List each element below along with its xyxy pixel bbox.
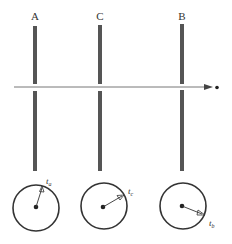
clock-c: tc <box>81 183 134 229</box>
clock-b-label: tb <box>209 218 215 229</box>
plate-label-c: C <box>96 10 103 22</box>
clock-a: ta <box>13 176 59 231</box>
plate-b <box>180 24 184 171</box>
plate-label-b: B <box>178 10 185 22</box>
particle-beam-arrow <box>14 84 219 90</box>
diagram-canvas: A C B ta tc tb <box>0 0 232 244</box>
clock-b: tb <box>160 183 215 229</box>
plate-a <box>33 26 37 171</box>
clock-a-label: ta <box>46 176 52 187</box>
particle-dot <box>215 86 219 90</box>
plate-c <box>98 25 102 171</box>
plate-label-a: A <box>31 10 39 22</box>
clock-c-label: tc <box>128 186 134 197</box>
